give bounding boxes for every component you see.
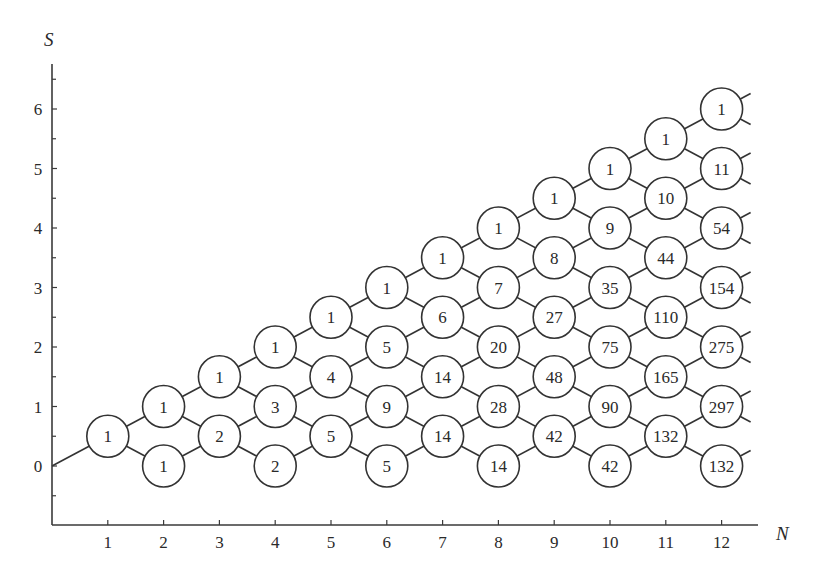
node: 1 bbox=[645, 118, 687, 160]
node-value: 1 bbox=[550, 189, 559, 208]
node-value: 1 bbox=[104, 427, 113, 446]
x-tick-label: 4 bbox=[271, 533, 280, 552]
node-value: 110 bbox=[653, 308, 678, 327]
node-value: 20 bbox=[490, 338, 507, 357]
node-value: 1 bbox=[159, 398, 168, 417]
node-value: 2 bbox=[215, 427, 224, 446]
node-value: 8 bbox=[550, 249, 559, 268]
y-tick-label: 0 bbox=[34, 457, 43, 476]
node-value: 14 bbox=[490, 457, 508, 476]
node-value: 132 bbox=[653, 427, 679, 446]
node: 28 bbox=[477, 386, 519, 428]
node-value: 90 bbox=[602, 398, 619, 417]
node-value: 3 bbox=[271, 398, 280, 417]
node: 4 bbox=[310, 356, 352, 398]
node: 1 bbox=[198, 356, 240, 398]
node-value: 1 bbox=[717, 100, 726, 119]
y-tick-label: 1 bbox=[34, 398, 43, 417]
x-tick-label: 9 bbox=[550, 533, 559, 552]
node-value: 1 bbox=[215, 368, 224, 387]
node: 1 bbox=[422, 237, 464, 279]
node: 1 bbox=[254, 326, 296, 368]
node: 75 bbox=[589, 326, 631, 368]
node-value: 2 bbox=[271, 457, 280, 476]
node: 90 bbox=[589, 386, 631, 428]
node: 8 bbox=[533, 237, 575, 279]
node-value: 54 bbox=[713, 219, 731, 238]
node-value: 27 bbox=[546, 308, 564, 327]
node: 5 bbox=[366, 445, 408, 487]
x-tick-label: 7 bbox=[438, 533, 447, 552]
node: 14 bbox=[422, 415, 464, 457]
node-value: 275 bbox=[709, 338, 735, 357]
node: 5 bbox=[366, 326, 408, 368]
node: 42 bbox=[589, 445, 631, 487]
node: 54 bbox=[701, 207, 743, 249]
y-axis-ticks: 0123456 bbox=[34, 79, 57, 496]
node-value: 297 bbox=[709, 398, 735, 417]
node: 14 bbox=[477, 445, 519, 487]
node-value: 10 bbox=[657, 189, 674, 208]
node-value: 5 bbox=[383, 338, 392, 357]
node-value: 1 bbox=[159, 457, 168, 476]
node-value: 42 bbox=[602, 457, 619, 476]
node: 1 bbox=[701, 88, 743, 130]
node: 154 bbox=[701, 267, 743, 309]
node: 1 bbox=[310, 296, 352, 338]
node: 9 bbox=[366, 386, 408, 428]
node: 11 bbox=[701, 148, 743, 190]
node: 35 bbox=[589, 267, 631, 309]
node-value: 14 bbox=[434, 427, 452, 446]
node: 42 bbox=[533, 415, 575, 457]
node-value: 1 bbox=[327, 308, 336, 327]
node-value: 28 bbox=[490, 398, 507, 417]
x-tick-label: 11 bbox=[658, 533, 674, 552]
node: 132 bbox=[701, 445, 743, 487]
node: 297 bbox=[701, 386, 743, 428]
node-value: 5 bbox=[383, 457, 392, 476]
node: 6 bbox=[422, 296, 464, 338]
node: 5 bbox=[310, 415, 352, 457]
node-value: 6 bbox=[438, 308, 447, 327]
node-value: 1 bbox=[606, 160, 615, 179]
node-value: 165 bbox=[653, 368, 679, 387]
x-tick-label: 10 bbox=[602, 533, 619, 552]
y-tick-label: 5 bbox=[34, 160, 43, 179]
node-value: 14 bbox=[434, 368, 452, 387]
x-tick-label: 1 bbox=[104, 533, 113, 552]
node: 1 bbox=[589, 148, 631, 190]
node-value: 75 bbox=[602, 338, 619, 357]
nodes-layer: 1111213214515951614141720281418274842193… bbox=[87, 88, 743, 487]
node-value: 11 bbox=[713, 160, 729, 179]
node: 1 bbox=[533, 177, 575, 219]
x-tick-label: 5 bbox=[327, 533, 336, 552]
node: 48 bbox=[533, 356, 575, 398]
node-value: 5 bbox=[327, 427, 336, 446]
y-tick-label: 2 bbox=[34, 338, 43, 357]
node-value: 48 bbox=[546, 368, 563, 387]
node: 165 bbox=[645, 356, 687, 398]
x-tick-label: 6 bbox=[383, 533, 392, 552]
node-value: 1 bbox=[662, 130, 671, 149]
node-value: 4 bbox=[327, 368, 336, 387]
node-value: 132 bbox=[709, 457, 735, 476]
node: 44 bbox=[645, 237, 687, 279]
x-tick-label: 8 bbox=[494, 533, 503, 552]
node-value: 9 bbox=[383, 398, 392, 417]
node: 20 bbox=[477, 326, 519, 368]
node-value: 7 bbox=[494, 279, 503, 298]
spin-branching-diagram: S N 123456789101112 0123456 111121321451… bbox=[0, 0, 820, 584]
node: 2 bbox=[254, 445, 296, 487]
node-value: 1 bbox=[438, 249, 447, 268]
node-value: 9 bbox=[606, 219, 615, 238]
x-tick-label: 2 bbox=[159, 533, 168, 552]
node: 275 bbox=[701, 326, 743, 368]
y-tick-label: 4 bbox=[34, 219, 43, 238]
node-value: 44 bbox=[657, 249, 675, 268]
y-axis-title: S bbox=[44, 29, 54, 50]
y-tick-label: 3 bbox=[34, 279, 43, 298]
x-tick-label: 3 bbox=[215, 533, 224, 552]
node-value: 1 bbox=[383, 279, 392, 298]
node: 1 bbox=[143, 445, 185, 487]
x-tick-label: 12 bbox=[713, 533, 730, 552]
